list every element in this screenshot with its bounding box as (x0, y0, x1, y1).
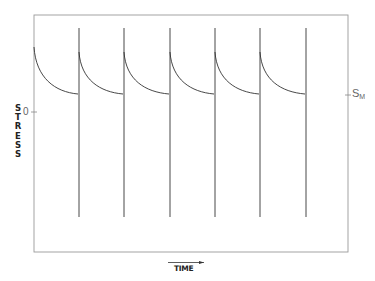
stress-time-diagram (0, 0, 375, 281)
zero-label: 0 (23, 106, 29, 117)
mean-stress-label: SM (352, 87, 365, 100)
y-label-char: S (13, 150, 23, 159)
mean-stress-subscript: M (359, 93, 365, 100)
stress-waveform (34, 28, 306, 217)
plot-frame (34, 15, 348, 252)
x-axis-label: TIME (174, 264, 193, 273)
y-axis-label: S T R E S S (13, 104, 23, 159)
